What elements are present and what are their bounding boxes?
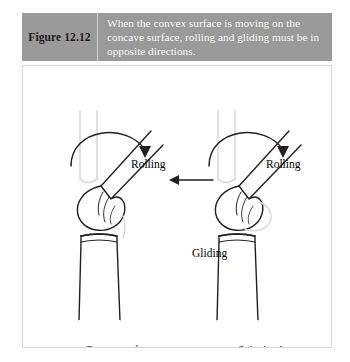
left-tibia-ghost-edge: [123, 216, 125, 238]
left-ghost-femur: [80, 111, 97, 183]
right-knee-diagram: [209, 111, 301, 321]
right-panel-caption: Spinning keeps the convex surface center…: [209, 343, 332, 348]
left-tibia: [79, 234, 120, 321]
right-ghost-femur: [218, 111, 235, 183]
left-panel-caption: Convex surface rolls off of concave surf…: [59, 343, 179, 348]
figure-illustration-panel: Rolling Rolling Gliding Convex surface r…: [22, 65, 332, 348]
figure-caption-text: When the convex surface is moving on the…: [107, 16, 324, 59]
figure-header-band: Figure 12.12 When the convex surface is …: [22, 13, 332, 61]
knee-joint-illustration: [23, 66, 331, 347]
label-rolling-right: Rolling: [266, 158, 301, 170]
figure-number-label: Figure 12.12: [28, 31, 90, 43]
figure-caption-cell: When the convex surface is moving on the…: [98, 13, 332, 61]
right-caption-line-1: Spinning keeps: [209, 343, 332, 348]
left-caption-line-1: Convex surface: [59, 343, 179, 348]
label-gliding: Gliding: [192, 247, 227, 259]
figure-number-cell: Figure 12.12: [22, 13, 98, 61]
left-knee-diagram: [71, 111, 163, 321]
label-rolling-left: Rolling: [131, 158, 166, 170]
gliding-arrow: [169, 175, 213, 185]
figure-root: Figure 12.12 When the convex surface is …: [0, 0, 350, 362]
